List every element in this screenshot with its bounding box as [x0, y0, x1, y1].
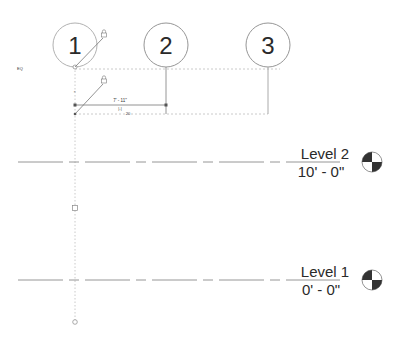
dimension-secondary-value: 20 [126, 111, 131, 116]
grid-3-label: 3 [261, 32, 274, 59]
grid-1-head[interactable]: 1 [53, 23, 97, 67]
lock-icon[interactable] [102, 76, 107, 83]
lock-icon[interactable] [102, 30, 107, 37]
level-2-elevation[interactable]: 10' - 0" [298, 163, 345, 180]
grid-2-head[interactable]: 2 [144, 23, 188, 67]
level-2-name[interactable]: Level 2 [301, 145, 349, 162]
dimension-eq-symbol[interactable]: |-| [118, 106, 121, 111]
drag-handle-marker-icon[interactable]: × [74, 89, 77, 94]
grid-1-label: 1 [68, 32, 81, 59]
dimension-witness-grip-left[interactable] [74, 104, 77, 107]
grid-1-bottom-grip[interactable] [74, 113, 77, 116]
grid-3-head[interactable]: 3 [246, 23, 290, 67]
dimension-value[interactable]: 7' - 11" [113, 98, 127, 103]
grid-1-align-line-bottom [75, 84, 103, 114]
grid-1-mid-grip[interactable] [73, 206, 78, 211]
level-target-icon [362, 152, 382, 172]
level-2-head[interactable]: Level 2 10' - 0" [298, 145, 382, 180]
level-1-name[interactable]: Level 1 [301, 263, 349, 280]
eq-toggle-icon[interactable]: EQ [17, 66, 23, 71]
dimension-witness-grip-right[interactable] [165, 104, 168, 107]
elevation-canvas[interactable]: 1 2 3 × 7' - 11" |-| 20 EQ Level 2 10' -… [0, 0, 408, 339]
grid-1-bottom-end-drag-handle[interactable] [73, 320, 78, 325]
level-1-head[interactable]: Level 1 0' - 0" [300, 263, 382, 298]
grid-2-label: 2 [159, 32, 172, 59]
level-target-icon [362, 270, 382, 290]
level-1-elevation[interactable]: 0' - 0" [302, 281, 340, 298]
